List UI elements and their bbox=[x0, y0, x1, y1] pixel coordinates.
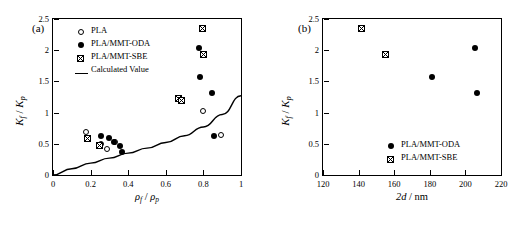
y-tick bbox=[54, 113, 59, 114]
marker-filled-circle bbox=[197, 74, 203, 80]
x-tick-label: 180 bbox=[414, 179, 446, 189]
x-tick bbox=[128, 170, 129, 175]
x-tick bbox=[241, 170, 242, 175]
y-tick-label: 2.5 bbox=[295, 14, 319, 24]
x-tick bbox=[91, 170, 92, 175]
marker-crossed-square bbox=[199, 25, 206, 32]
x-tick-label: 200 bbox=[449, 179, 481, 189]
marker-filled-circle bbox=[474, 90, 480, 96]
y-tick bbox=[54, 50, 59, 51]
y-tick-label: 2 bbox=[25, 45, 49, 55]
panel-a-x-axis-label: ρf / ρp bbox=[52, 191, 242, 204]
legend-label: PLA/MMT-SBE bbox=[91, 51, 147, 61]
y-tick bbox=[324, 81, 329, 82]
x-tick bbox=[430, 170, 431, 175]
y-axis-denominator-sub: p bbox=[18, 96, 27, 100]
y-tick-label: 2 bbox=[295, 45, 319, 55]
panel-b-plot-area: PLA/MMT-ODAPLA/MMT-SBE bbox=[322, 18, 502, 176]
y-tick-label: 1.5 bbox=[25, 76, 49, 86]
x-axis-label-pre: 2d bbox=[396, 191, 407, 202]
x-tick bbox=[359, 170, 360, 175]
x-axis-label-post: / nm bbox=[409, 191, 428, 202]
x-tick-label: 220 bbox=[485, 179, 517, 189]
marker-filled-circle bbox=[117, 143, 123, 149]
y-axis-denominator: K bbox=[13, 100, 25, 107]
marker-crossed-square bbox=[77, 55, 84, 62]
y-axis-numerator: K bbox=[279, 118, 291, 125]
x-tick bbox=[501, 170, 502, 175]
marker-crossed-square bbox=[200, 51, 207, 58]
panel-b-x-axis-label: 2d / nm bbox=[322, 191, 502, 202]
marker-filled-circle bbox=[472, 45, 478, 51]
y-tick-label: 2.5 bbox=[25, 14, 49, 24]
x-tick-label: 0.6 bbox=[150, 179, 182, 189]
marker-filled-circle bbox=[211, 133, 217, 139]
y-axis-numerator-sub: f bbox=[284, 116, 293, 118]
x-tick-label: 0.8 bbox=[187, 179, 219, 189]
marker-filled-circle bbox=[119, 149, 125, 155]
x-tick-label: 0.2 bbox=[75, 179, 107, 189]
legend-label: PLA/MMT-ODA bbox=[401, 139, 460, 149]
x-tick-label: 160 bbox=[378, 179, 410, 189]
y-tick-label: 0 bbox=[25, 170, 49, 180]
x-tick-label: 140 bbox=[343, 179, 375, 189]
panel-a: (a) Kf / Kp PLAPLA/MMT-ODAPLA/MMT-SBECal… bbox=[0, 0, 262, 234]
x-tick-label: 120 bbox=[307, 179, 339, 189]
y-axis-denominator: K bbox=[279, 100, 291, 107]
x-tick-label: 1 bbox=[225, 179, 257, 189]
legend-line-swatch bbox=[75, 73, 88, 74]
y-tick bbox=[324, 175, 329, 176]
y-tick-label: 0.5 bbox=[295, 139, 319, 149]
x-tick-label: 0 bbox=[37, 179, 69, 189]
y-tick bbox=[324, 144, 329, 145]
y-tick-label: 1 bbox=[25, 108, 49, 118]
y-tick bbox=[324, 113, 329, 114]
y-tick bbox=[54, 175, 59, 176]
y-axis-numerator: K bbox=[13, 118, 25, 125]
y-axis-denominator-sub: p bbox=[284, 96, 293, 100]
marker-filled-circle bbox=[388, 143, 394, 149]
x-tick bbox=[166, 170, 167, 175]
x-tick bbox=[465, 170, 466, 175]
y-tick-label: 1.5 bbox=[295, 76, 319, 86]
marker-open-circle bbox=[78, 29, 84, 35]
marker-crossed-square bbox=[387, 156, 394, 163]
y-tick bbox=[324, 50, 329, 51]
panel-b: (b) Kf / Kp PLA/MMT-ODAPLA/MMT-SBE 12014… bbox=[262, 0, 523, 234]
marker-crossed-square bbox=[382, 51, 389, 58]
legend-label: PLA bbox=[91, 25, 107, 35]
x-tick bbox=[394, 170, 395, 175]
y-tick bbox=[324, 19, 329, 20]
legend-label: PLA/MMT-SBE bbox=[401, 152, 457, 162]
x-tick bbox=[203, 170, 204, 175]
x-axis-numerator-sub: f bbox=[140, 195, 142, 204]
y-tick bbox=[54, 144, 59, 145]
y-tick bbox=[54, 19, 59, 20]
y-tick-label: 0.5 bbox=[25, 139, 49, 149]
panel-a-plot-area: PLAPLA/MMT-ODAPLA/MMT-SBECalculated Valu… bbox=[52, 18, 242, 176]
figure-root: (a) Kf / Kp PLAPLA/MMT-ODAPLA/MMT-SBECal… bbox=[0, 0, 523, 234]
x-axis-denominator-sub: p bbox=[155, 195, 159, 204]
marker-crossed-square bbox=[178, 97, 185, 104]
marker-crossed-square bbox=[84, 135, 91, 142]
y-tick-label: 0 bbox=[295, 170, 319, 180]
legend-label: PLA/MMT-ODA bbox=[91, 38, 150, 48]
marker-filled-circle bbox=[78, 42, 84, 48]
legend-label: Calculated Value bbox=[91, 64, 149, 74]
marker-crossed-square bbox=[96, 142, 103, 149]
marker-crossed-square bbox=[358, 25, 365, 32]
marker-filled-circle bbox=[196, 45, 202, 51]
marker-filled-circle bbox=[429, 74, 435, 80]
y-tick bbox=[54, 81, 59, 82]
x-tick-label: 0.4 bbox=[112, 179, 144, 189]
y-tick-label: 1 bbox=[295, 108, 319, 118]
